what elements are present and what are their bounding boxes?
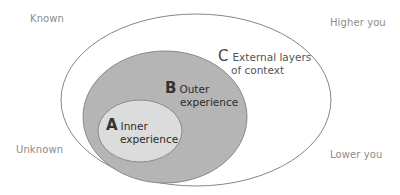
layer-a-line2: experience (120, 133, 178, 145)
nested-ellipse-diagram: Known Unknown Higher you Lower you CExte… (0, 0, 400, 195)
layer-b-line2: experience (180, 96, 238, 108)
label-known: Known (30, 13, 64, 24)
label-higher-you: Higher you (330, 17, 386, 28)
layer-a-line1: Inner (121, 120, 148, 132)
label-unknown: Unknown (16, 144, 63, 155)
layer-c-letter: C (218, 47, 228, 65)
layer-c-line1: External layers (232, 51, 311, 63)
layer-a-label: AInner experience (106, 119, 178, 146)
layer-c-label: CExternal layers of context (218, 50, 311, 77)
layer-c-line2: of context (231, 64, 284, 76)
layer-a-letter: A (106, 116, 118, 134)
label-lower-you: Lower you (330, 149, 382, 160)
layer-b-letter: B (165, 79, 176, 97)
layer-b-label: BOuter experience (165, 82, 238, 109)
layer-b-line1: Outer (179, 83, 209, 95)
